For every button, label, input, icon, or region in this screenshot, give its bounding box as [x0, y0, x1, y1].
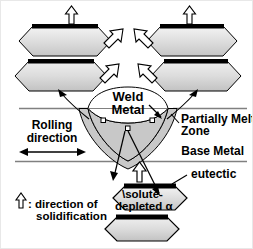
eutectic-band	[28, 59, 94, 64]
rolling-direction-arrow	[19, 148, 86, 156]
eutectic-label: eutectic	[191, 167, 237, 181]
eutectic-band	[164, 59, 228, 64]
rolling-direction-label-line1: Rolling	[32, 118, 73, 132]
grain-top-left-upper	[19, 24, 111, 56]
solute-depleted-label-line1: \solute-	[122, 188, 163, 200]
legend-label-line2: solidification	[36, 210, 107, 222]
solidification-arrow-top-left	[66, 6, 78, 24]
leader-line-left-grain	[58, 89, 89, 119]
grain-hexagon-body	[151, 61, 241, 91]
nucleation-marker	[126, 126, 131, 131]
nucleation-marker	[150, 118, 155, 123]
solute-depleted-label-line2: depleted α	[115, 200, 173, 212]
weld-metal-label-line2: Metal	[111, 102, 144, 117]
base-metal-label: Base Metal	[181, 144, 244, 158]
diagram-canvas: Weld Metal Partially Melted Zone Base Me…	[1, 1, 253, 249]
grain-hexagon-body	[15, 61, 107, 91]
grain-bottom-lower	[105, 215, 179, 242]
grain-hexagon-body	[147, 26, 237, 56]
eutectic-leader	[172, 175, 187, 184]
legend-label-line1: : direction of	[28, 198, 98, 210]
partially-melted-zone-label-line2: Zone	[181, 124, 210, 138]
nucleation-marker	[101, 118, 106, 123]
welding-solidification-diagram: Weld Metal Partially Melted Zone Base Me…	[0, 0, 253, 249]
grain-hexagon-body	[105, 217, 179, 241]
legend-solidification-arrow-icon	[16, 193, 26, 208]
eutectic-band	[32, 24, 98, 29]
rolling-direction-label-line2: direction	[27, 131, 78, 145]
eutectic-band	[116, 215, 168, 220]
grain-top-right-upper	[147, 24, 237, 56]
solidification-arrow-top-right	[184, 6, 196, 24]
grain-top-right-lower	[151, 59, 241, 91]
grain-top-left-lower	[15, 59, 107, 91]
grain-hexagon-body	[19, 26, 111, 56]
eutectic-band	[160, 24, 224, 29]
